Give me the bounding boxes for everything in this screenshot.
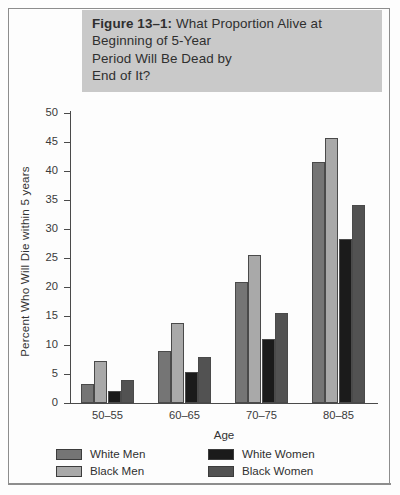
legend-item: Black Men — [56, 465, 144, 477]
y-tick-label: 15 — [0, 310, 58, 321]
bar — [171, 323, 184, 403]
legend-swatch-icon — [208, 449, 234, 460]
y-tick-mark — [64, 229, 70, 230]
y-tick-label: 10 — [0, 339, 58, 350]
y-tick-mark — [64, 258, 70, 259]
x-category-label: 60–65 — [155, 409, 215, 421]
chart-legend: White MenBlack MenWhite WomenBlack Women — [56, 448, 356, 482]
bar — [262, 339, 275, 403]
bar — [352, 205, 365, 403]
x-category-label: 80–85 — [309, 409, 369, 421]
y-tick-label: 0 — [0, 397, 58, 408]
legend-swatch-icon — [208, 466, 234, 477]
figure-container: Figure 13–1: What Proportion Alive at Be… — [0, 0, 400, 495]
bar — [185, 372, 198, 403]
bar — [108, 391, 121, 403]
y-tick-label: 20 — [0, 281, 58, 292]
bar — [312, 162, 325, 403]
legend-label: Black Men — [90, 465, 144, 477]
legend-label: Black Women — [242, 465, 313, 477]
x-axis-line — [70, 403, 378, 404]
y-axis-line — [70, 111, 71, 404]
bar — [81, 384, 94, 403]
x-axis-title: Age — [70, 428, 378, 441]
y-tick-mark — [64, 403, 70, 404]
legend-item: Black Women — [208, 465, 313, 477]
bar — [158, 351, 171, 403]
legend-item: White Women — [208, 448, 315, 460]
y-tick-mark — [64, 374, 70, 375]
bar — [248, 255, 261, 403]
legend-swatch-icon — [56, 466, 82, 477]
y-tick-mark — [64, 316, 70, 317]
y-tick-mark — [64, 345, 70, 346]
y-tick-mark — [64, 287, 70, 288]
y-tick-label: 35 — [0, 194, 58, 205]
legend-label: White Men — [90, 448, 145, 460]
bar — [235, 282, 248, 403]
legend-item: White Men — [56, 448, 145, 460]
bar-chart-plot: Percent Who Will Die within 5 years Age … — [0, 0, 400, 495]
y-tick-label: 30 — [0, 223, 58, 234]
y-tick-mark — [64, 142, 70, 143]
bar — [198, 357, 211, 403]
y-tick-mark — [64, 113, 70, 114]
bar — [275, 313, 288, 403]
bar — [339, 239, 352, 403]
y-tick-mark — [64, 171, 70, 172]
y-tick-mark — [64, 200, 70, 201]
x-category-label: 70–75 — [232, 409, 292, 421]
y-tick-label: 5 — [0, 368, 58, 379]
y-tick-label: 50 — [0, 107, 58, 118]
bar — [121, 380, 134, 403]
bar — [325, 138, 338, 403]
y-tick-label: 45 — [0, 136, 58, 147]
legend-label: White Women — [242, 448, 315, 460]
y-tick-label: 25 — [0, 252, 58, 263]
bar — [94, 361, 107, 403]
legend-swatch-icon — [56, 449, 82, 460]
y-tick-label: 40 — [0, 165, 58, 176]
x-category-label: 50–55 — [78, 409, 138, 421]
